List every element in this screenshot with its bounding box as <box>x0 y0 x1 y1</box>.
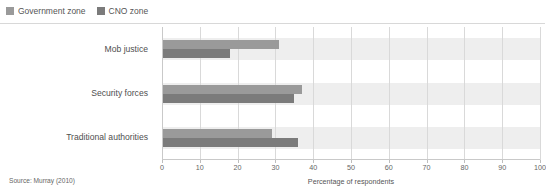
x-tick-label: 40 <box>309 164 317 171</box>
bar <box>162 129 272 138</box>
gridline <box>502 27 503 160</box>
x-axis-title: Percentage of respondents <box>308 178 394 185</box>
gridline <box>427 27 428 160</box>
legend-label: CNO zone <box>109 7 149 16</box>
legend-swatch-cno-zone <box>97 7 105 15</box>
x-tick-label: 0 <box>160 164 164 171</box>
category-label: Traditional authorities <box>66 133 148 142</box>
legend-divider <box>0 23 545 24</box>
bar <box>162 94 294 103</box>
gridline <box>464 27 465 160</box>
y-axis-line <box>162 27 163 160</box>
gridline <box>351 27 352 160</box>
y-axis-category-labels: Mob justiceSecurity forcesTraditional au… <box>0 27 156 160</box>
x-tick-label: 20 <box>234 164 242 171</box>
x-tick-label: 70 <box>423 164 431 171</box>
x-tick-label: 60 <box>385 164 393 171</box>
x-tick-label: 80 <box>460 164 468 171</box>
bar <box>162 49 230 58</box>
x-tick-label: 10 <box>196 164 204 171</box>
x-axis-ticks: 0102030405060708090100 <box>162 160 540 174</box>
bar <box>162 138 298 147</box>
gridline <box>313 27 314 160</box>
bar <box>162 40 279 49</box>
x-tick-label: 30 <box>271 164 279 171</box>
gridline <box>540 27 541 160</box>
legend-entry: Government zone <box>6 7 86 16</box>
chart-legend: Government zoneCNO zone <box>6 7 148 16</box>
category-label: Security forces <box>91 89 148 98</box>
legend-entry: CNO zone <box>97 7 149 16</box>
category-label: Mob justice <box>105 45 148 54</box>
legend-swatch-government-zone <box>6 7 14 15</box>
source-note: Source: Murray (2010) <box>9 178 75 185</box>
bar <box>162 85 302 94</box>
gridline <box>389 27 390 160</box>
x-tick-label: 90 <box>498 164 506 171</box>
plot-area <box>162 27 540 160</box>
x-tick-label: 50 <box>347 164 355 171</box>
x-tick-label: 100 <box>534 164 546 171</box>
legend-label: Government zone <box>18 7 86 16</box>
